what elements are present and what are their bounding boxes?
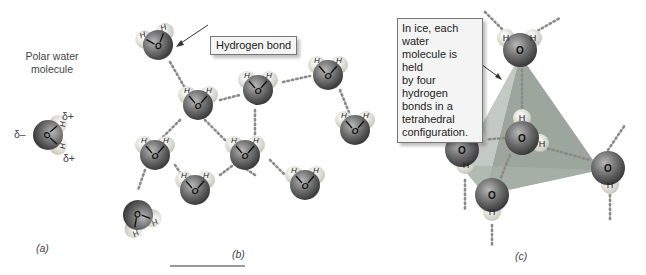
title-line-1: Polar water — [22, 50, 82, 63]
caption-b: (b) — [232, 248, 245, 260]
svg-text:H: H — [519, 113, 526, 123]
title-line-2: molecule — [22, 63, 82, 76]
delta-plus-bottom-label: δ+ — [63, 152, 75, 164]
svg-text:H: H — [503, 33, 510, 43]
arrowhead-icon — [495, 73, 502, 80]
callout-line: by four hydrogen — [402, 74, 478, 100]
hydrogen-bond-pointer — [178, 25, 208, 45]
callout-line: configuration. — [402, 126, 478, 139]
svg-text:H: H — [489, 207, 496, 217]
svg-text:H: H — [539, 139, 546, 149]
figure-canvas: O H H O — [0, 0, 646, 275]
ice-callout: In ice, each water molecule is held by f… — [397, 18, 483, 143]
svg-text:H: H — [463, 160, 470, 170]
svg-text:H: H — [530, 33, 537, 43]
panel-a-title: Polar water molecule — [22, 50, 82, 76]
caption-a: (a) — [36, 242, 49, 254]
svg-text:H: H — [607, 180, 614, 190]
callout-line: In ice, each water — [402, 22, 478, 48]
caption-c: (c) — [515, 250, 527, 262]
callout-line: bonds in a — [402, 100, 478, 113]
delta-plus-top-label: δ+ — [62, 110, 74, 122]
arrowhead-icon — [176, 40, 184, 47]
delta-minus-label: δ– — [14, 128, 26, 140]
callout-line: tetrahedral — [402, 113, 478, 126]
hydrogen-bond-callout: Hydrogen bond — [210, 36, 297, 55]
callout-line: molecule is held — [402, 48, 478, 74]
